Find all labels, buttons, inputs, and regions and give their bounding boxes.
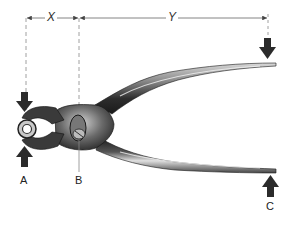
- arrow-c-up-icon: [262, 175, 279, 197]
- dimension-x-label: X: [45, 11, 57, 23]
- upper-handle: [95, 63, 276, 114]
- dimension-y-label: Y: [166, 11, 178, 23]
- pliers: [18, 63, 276, 173]
- pliers-diagram: [0, 0, 289, 226]
- arrow-top-handle-down-icon: [259, 38, 276, 59]
- point-b-label: B: [75, 175, 82, 186]
- point-c-label: C: [266, 201, 274, 212]
- arrow-a-up-icon: [16, 146, 33, 167]
- point-a-label: A: [20, 175, 27, 186]
